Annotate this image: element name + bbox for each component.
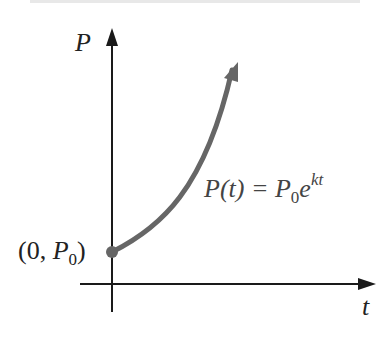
initial-point-label-close: ) bbox=[77, 236, 86, 265]
equation-base: P bbox=[275, 174, 291, 203]
equation-lhs: P(t) = bbox=[204, 174, 275, 203]
equation-exponent: kt bbox=[311, 170, 323, 189]
curve-arrowhead-icon bbox=[224, 62, 238, 82]
exponential-curve bbox=[112, 70, 232, 252]
initial-point-label: (0, P0) bbox=[18, 236, 86, 270]
initial-point bbox=[106, 246, 118, 258]
initial-point-label-open: (0, bbox=[18, 236, 53, 265]
exponential-growth-diagram bbox=[0, 0, 391, 337]
equation-e: e bbox=[299, 174, 311, 203]
x-axis-label: t bbox=[362, 292, 369, 322]
growth-equation: P(t) = P0ekt bbox=[204, 170, 323, 208]
initial-point-label-var: P bbox=[53, 236, 69, 265]
cropped-title-fragment bbox=[30, 0, 360, 3]
p-axis-arrowhead-icon bbox=[106, 28, 118, 46]
initial-point-label-sub: 0 bbox=[69, 250, 78, 269]
t-axis-arrowhead-icon bbox=[358, 278, 376, 290]
y-axis-label: P bbox=[75, 28, 91, 58]
